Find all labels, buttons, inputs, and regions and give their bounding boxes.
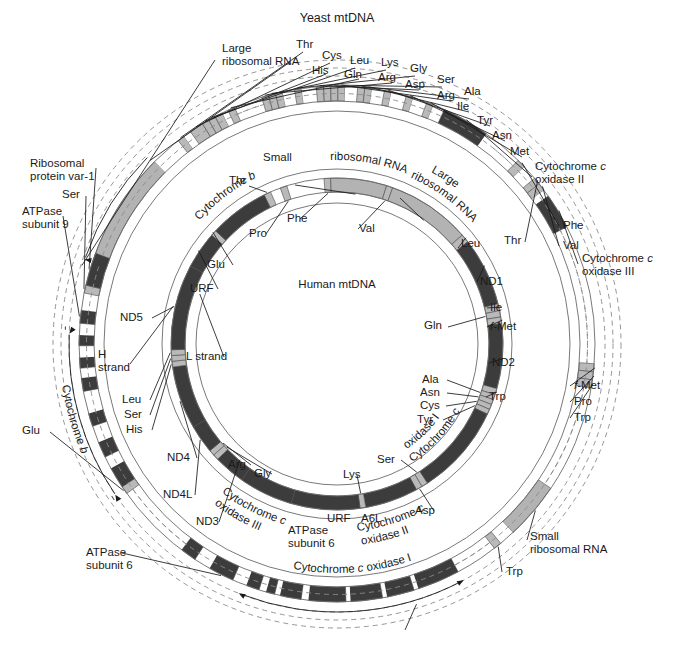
human-label-nd5: ND5: [120, 311, 143, 323]
yeast-label-atpase-subunit-9-line2: subunit 9: [22, 218, 69, 230]
human-label-urf-2: URF: [190, 282, 214, 294]
yeast-segment-atpase-subunit-9: [80, 310, 96, 325]
yeast-ring: [79, 86, 595, 602]
yeast-label-ribosomal-protein-var-1-line1: Ribosomal: [30, 157, 84, 169]
human-label-h-strand-2: strand: [98, 361, 130, 373]
figure-canvas: Yeast mtDNAHuman mtDNALargeribosomal RNA…: [0, 0, 675, 654]
yeast-cox1-arrowhead-right: [457, 580, 464, 586]
yeast-label-leu: Leu: [350, 54, 369, 66]
human-label-glu: Glu: [207, 258, 225, 270]
human-label-gln: Gln: [424, 319, 442, 331]
yeast-leader-trp2: [498, 547, 502, 572]
yeast-label-trp-2: Trp: [506, 565, 523, 577]
human-label-trp: Trp: [489, 390, 506, 402]
human-label-l-strand: L strand: [186, 350, 227, 362]
yeast-dash-1: [238, 104, 264, 114]
yeast-label-cytochrome-c-oxidase-iii-line2: oxidase III: [582, 265, 634, 277]
human-label-leu-2: Leu: [122, 393, 141, 405]
yeast-segment-cox1-s1: [414, 559, 458, 589]
human-label-asn: Asn: [420, 386, 440, 398]
human-segment-small-ribosomal-rna: [331, 178, 387, 199]
yeast-title: Yeast mtDNA: [300, 11, 375, 25]
human-label-his: His: [126, 423, 143, 435]
human-label-urf: URF: [327, 512, 351, 524]
human-segment-atpase-subunit-6-a6l: [291, 490, 360, 510]
yeast-cytb-tick-bottom: [112, 496, 115, 500]
yeast-segment-small-ribosomal-rna: [503, 480, 551, 533]
mtdna-comparison-diagram: Yeast mtDNAHuman mtDNALargeribosomal RNA…: [0, 0, 675, 654]
yeast-label-small-ribosomal-rna-line2: ribosomal RNA: [530, 543, 608, 555]
yeast-label-arg: Arg: [378, 71, 396, 83]
human-segment-trna-pro: [280, 186, 291, 201]
human-label-phe: Phe: [287, 212, 307, 224]
human-leader-his: [152, 364, 171, 430]
human-label-h-strand-1: H: [98, 348, 106, 360]
yeast-label-lys: Lys: [381, 56, 399, 68]
yeast-leader-lrrna: [150, 62, 290, 160]
yeast-label-gly: Gly: [410, 62, 428, 74]
yeast-cytb-arrowhead-top: [69, 327, 76, 334]
yeast-label-cytochrome-c-oxidase-ii-line2: oxidase II: [535, 173, 584, 185]
human-leader-leu2: [150, 353, 170, 400]
yeast-label-cytochrome-c-oxidase-iii-line1: Cytochrome c: [582, 252, 653, 264]
yeast-label-ala: Ala: [464, 85, 481, 97]
yeast-label-thr-2: Thr: [504, 234, 521, 246]
yeast-segment-large-ribosomal-rna: [92, 162, 166, 269]
human-leader-cys: [446, 401, 477, 406]
human-label-nd4: ND4: [167, 451, 191, 463]
yeast-mtdna-map: [79, 86, 595, 602]
human-label-nd3: ND3: [196, 515, 219, 527]
human-leader-l-strand: [200, 294, 224, 357]
yeast-label-atpase-subunit-9-line1: ATPase: [22, 205, 62, 217]
yeast-label-trp: Trp: [574, 411, 591, 423]
yeast-label-atpase-subunit-6-line1: ATPase: [86, 546, 126, 558]
yeast-label-f-met: f-Met: [574, 379, 601, 391]
yeast-label-atpase-subunit-6-line2: subunit 6: [86, 559, 133, 571]
human-label-atpase-subunit-6-line1: ATPase: [288, 524, 328, 536]
yeast-label-pro: Pro: [574, 395, 592, 407]
yeast-label-ser-y: Ser: [62, 188, 80, 200]
yeast-segment-cox1-s4: [308, 585, 346, 602]
human-label-nd1: ND1: [480, 275, 503, 287]
human-label-small-ribosomal-rna-line1: Small: [263, 151, 292, 163]
human-outer-guide-circle: [162, 169, 512, 519]
yeast-label-large-ribosomal-rna-line1: Large: [222, 42, 251, 54]
human-label-f-met: f-Met: [490, 320, 517, 332]
human-segment-nd5: [171, 266, 203, 350]
yeast-label-small-ribosomal-rna-line1: Small: [530, 530, 559, 542]
yeast-leader-ser-y: [84, 196, 86, 289]
yeast-leader-atpase9: [63, 216, 79, 316]
human-label-small-rrna-l2: ribosomal RNA: [330, 150, 410, 175]
human-leader-asn: [447, 393, 478, 397]
human-mtdna-map: [171, 178, 503, 510]
human-ring: [171, 178, 503, 510]
human-label-pro: Pro: [249, 227, 267, 239]
human-ring-outline-a: [185, 192, 489, 496]
human-label-ser: Ser: [377, 453, 395, 465]
human-label-atpase-subunit-6-line2: subunit 6: [288, 537, 335, 549]
yeast-label-large-ribosomal-rna-line2: ribosomal RNA: [222, 55, 300, 67]
human-leader-gln: [448, 316, 485, 327]
human-label-leu: Leu: [461, 237, 480, 249]
yeast-label-cys: Cys: [322, 49, 342, 61]
yeast-label-met: Met: [510, 145, 530, 157]
human-segment-trna-leu-2: [171, 349, 185, 355]
yeast-cox1-tick: [405, 604, 417, 630]
human-label-val: Val: [359, 222, 375, 234]
yeast-label-asp: Asp: [405, 78, 425, 90]
yeast-cox1-arrowhead-left: [239, 593, 246, 599]
yeast-label-glu: Glu: [22, 424, 40, 436]
human-title: Human mtDNA: [298, 278, 376, 290]
human-segment-nd4: [173, 365, 206, 427]
human-leader-nd5: [152, 306, 174, 318]
yeast-label-cytochrome-c-oxidase-i: Cytochrome c oxidase I: [293, 551, 413, 575]
human-leader-ala: [447, 380, 480, 392]
human-label-ser-2: Ser: [124, 408, 142, 420]
yeast-label-cytochrome-c-oxidase-ii-line1: Cytochrome c: [535, 160, 606, 172]
human-label-nd2: ND2: [492, 356, 515, 368]
yeast-cytb-arrowhead-bottom: [115, 495, 121, 502]
yeast-label-ser: Ser: [437, 73, 455, 85]
human-leader-phe: [300, 193, 328, 219]
human-label-cys: Cys: [420, 399, 440, 411]
yeast-label-ribosomal-protein-var-1-line2: protein var-1: [30, 170, 95, 182]
